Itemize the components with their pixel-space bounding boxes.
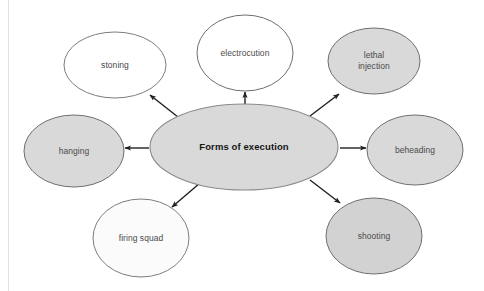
nodes-group: [24, 15, 463, 277]
edge-stoning: [150, 95, 178, 117]
node-firing-squad[interactable]: [93, 199, 189, 277]
node-hanging[interactable]: [24, 115, 124, 187]
node-lethal-injection[interactable]: [328, 28, 420, 94]
diagram-graphics: [0, 0, 484, 291]
node-stoning[interactable]: [64, 32, 166, 98]
edge-shooting: [310, 180, 340, 203]
node-electrocution[interactable]: [197, 15, 293, 91]
node-center[interactable]: [150, 104, 338, 190]
edge-lethal-injection: [310, 94, 339, 116]
node-shooting[interactable]: [326, 198, 422, 274]
diagram-canvas: Forms of executionstoningelectrocutionle…: [0, 0, 484, 291]
node-beheading[interactable]: [367, 115, 463, 185]
edge-firing-squad: [172, 183, 200, 207]
